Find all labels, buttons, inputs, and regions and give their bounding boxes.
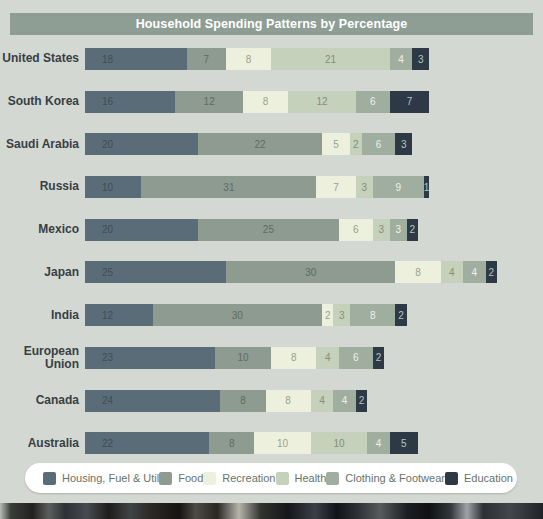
segment-value: 7 <box>204 54 210 65</box>
bar-segment: 2 <box>395 304 406 326</box>
bar-segment: 2 <box>350 133 361 155</box>
bar-segment: 10 <box>311 432 367 454</box>
stacked-bar: 20256332 <box>85 219 418 241</box>
bar-segment: 6 <box>356 91 390 113</box>
segment-value: 4 <box>398 54 404 65</box>
row-label: European Union <box>0 345 85 371</box>
stacked-bar: 228101045 <box>85 432 418 454</box>
legend-label: Health <box>295 472 327 484</box>
bar-segment: 22 <box>85 432 209 454</box>
bar-segment: 6 <box>362 133 396 155</box>
stacked-bar: 25308442 <box>85 261 497 283</box>
segment-value: 25 <box>263 224 274 235</box>
segment-value: 8 <box>263 96 269 107</box>
segment-value: 3 <box>401 139 407 150</box>
legend-label: Recreation <box>222 472 275 484</box>
segment-value: 4 <box>376 438 382 449</box>
stacked-bar: 161281267 <box>85 91 429 113</box>
bar-segment: 25 <box>198 219 339 241</box>
bar-segment: 3 <box>395 133 412 155</box>
bar-segment: 24 <box>85 390 220 412</box>
bar-segment: 8 <box>271 347 316 369</box>
legend-item: Food <box>159 472 203 485</box>
segment-value: 3 <box>379 224 385 235</box>
segment-value: 10 <box>102 182 113 193</box>
segment-value: 8 <box>240 395 246 406</box>
bar-segment: 12 <box>85 304 153 326</box>
legend-swatch <box>203 472 216 485</box>
segment-value: 12 <box>204 96 215 107</box>
bar-segment: 22 <box>198 133 322 155</box>
segment-value: 10 <box>333 438 344 449</box>
segment-value: 9 <box>395 182 401 193</box>
bar-segment: 2 <box>486 261 497 283</box>
bar-segment: 30 <box>153 304 322 326</box>
photo-strip <box>0 503 543 519</box>
segment-value: 22 <box>102 438 113 449</box>
bar-segment: 12 <box>288 91 356 113</box>
row-label: Australia <box>0 437 85 450</box>
bar-segment: 4 <box>316 347 339 369</box>
infographic: Household Spending Patterns by Percentag… <box>0 0 543 519</box>
segment-value: 30 <box>232 310 243 321</box>
bar-segment: 8 <box>209 432 254 454</box>
segment-value: 4 <box>472 267 478 278</box>
chart-row: Australia228101045 <box>0 432 543 454</box>
segment-value: 18 <box>102 54 113 65</box>
legend-item: Health <box>276 472 327 485</box>
bar-segment: 3 <box>390 219 407 241</box>
bar-segment: 30 <box>226 261 395 283</box>
bar-segment: 8 <box>350 304 395 326</box>
chart-row: Japan25308442 <box>0 261 543 283</box>
stacked-bar: 18782143 <box>85 48 429 70</box>
segment-value: 2 <box>353 139 359 150</box>
stacked-bar: 10317391 <box>85 176 429 198</box>
segment-value: 3 <box>362 182 368 193</box>
bar-segment: 4 <box>390 48 413 70</box>
bar-segment: 3 <box>356 176 373 198</box>
segment-value: 4 <box>449 267 455 278</box>
segment-value: 10 <box>277 438 288 449</box>
bar-segment: 6 <box>339 347 373 369</box>
row-label: India <box>0 309 85 322</box>
segment-value: 12 <box>102 310 113 321</box>
chart-title-bar: Household Spending Patterns by Percentag… <box>10 13 533 35</box>
legend-swatch <box>326 472 339 485</box>
bar-segment: 4 <box>463 261 486 283</box>
bar-segment: 20 <box>85 133 198 155</box>
bar-segment: 6 <box>339 219 373 241</box>
bar-segment: 18 <box>85 48 187 70</box>
bar-segment: 8 <box>220 390 265 412</box>
segment-value: 6 <box>370 96 376 107</box>
row-label: South Korea <box>0 95 85 108</box>
segment-value: 2 <box>398 310 404 321</box>
segment-value: 6 <box>353 352 359 363</box>
segment-value: 3 <box>339 310 345 321</box>
bar-segment: 3 <box>373 219 390 241</box>
segment-value: 16 <box>102 96 113 107</box>
segment-value: 8 <box>291 352 297 363</box>
legend-item: Recreation <box>203 472 275 485</box>
chart-row: Russia10317391 <box>0 176 543 198</box>
bar-segment: 9 <box>373 176 424 198</box>
bar-segment: 4 <box>367 432 390 454</box>
legend-swatch <box>43 472 56 485</box>
row-label: Mexico <box>0 223 85 236</box>
bar-segment: 8 <box>243 91 288 113</box>
segment-value: 2 <box>359 395 365 406</box>
bar-segment: 4 <box>441 261 464 283</box>
segment-value: 22 <box>254 139 265 150</box>
bar-segment: 21 <box>271 48 390 70</box>
bar-segment: 16 <box>85 91 175 113</box>
row-label: Canada <box>0 394 85 407</box>
legend-swatch <box>276 472 289 485</box>
bar-segment: 3 <box>333 304 350 326</box>
bar-segment: 7 <box>187 48 227 70</box>
bar-segment: 2 <box>373 347 384 369</box>
stacked-bar: 12302382 <box>85 304 407 326</box>
segment-value: 7 <box>333 182 339 193</box>
segment-value: 3 <box>395 224 401 235</box>
bar-segment: 4 <box>311 390 334 412</box>
segment-value: 12 <box>316 96 327 107</box>
chart-row: India12302382 <box>0 304 543 326</box>
